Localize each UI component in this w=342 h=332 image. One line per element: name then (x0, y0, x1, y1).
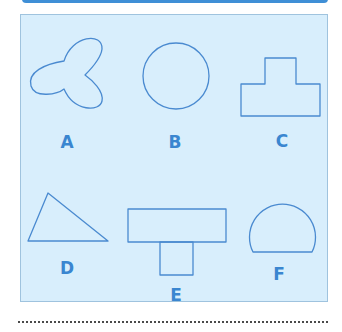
dotted-divider (18, 321, 328, 323)
label-d: D (60, 260, 74, 277)
label-a: A (60, 134, 73, 151)
shape-e-top-rect (128, 209, 226, 242)
label-c: C (276, 133, 288, 150)
shapes-canvas (0, 0, 342, 332)
label-e: E (170, 287, 182, 304)
label-f: F (273, 266, 285, 283)
shape-e-bottom-square (160, 242, 193, 275)
label-b: B (169, 134, 182, 151)
shape-a-clover (30, 38, 102, 108)
shape-c-stepped (241, 58, 320, 116)
shape-f-dome (250, 204, 316, 252)
shape-d-triangle (28, 193, 108, 241)
shape-b-circle (143, 43, 209, 109)
